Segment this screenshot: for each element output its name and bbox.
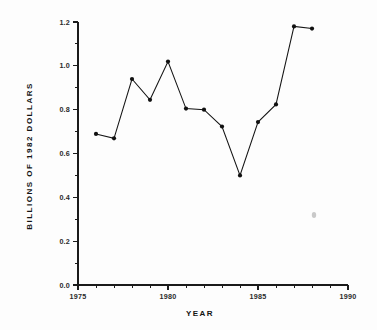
x-tick-label: 1975 (70, 292, 87, 301)
x-tick-label: 1985 (250, 292, 267, 301)
y-tick-label: 1.2 (59, 18, 70, 27)
x-axis-tick-labels: 1975 1980 1985 1990 (70, 292, 357, 301)
y-axis-major-ticks (73, 22, 78, 285)
data-point (256, 120, 260, 124)
y-tick-label: 0.2 (59, 237, 70, 246)
chart-figure: 1.2 1.0 0.8 0.6 0.4 0.2 0.0 1975 1980 19… (0, 0, 377, 330)
y-tick-label: 0.4 (59, 193, 70, 202)
y-tick-label: 0.0 (59, 281, 70, 290)
data-point (166, 60, 170, 64)
x-tick-label: 1980 (160, 292, 177, 301)
y-axis-title: BILLIONS OF 1982 DOLLARS (25, 82, 34, 230)
y-axis-tick-labels: 1.2 1.0 0.8 0.6 0.4 0.2 0.0 (59, 18, 70, 290)
data-point (130, 77, 134, 81)
data-point (292, 24, 296, 28)
data-point (238, 173, 242, 177)
data-point (112, 136, 116, 140)
x-axis-title: YEAR (186, 309, 214, 318)
y-tick-label: 0.8 (59, 105, 70, 114)
data-series-line (96, 26, 312, 175)
scan-artifact-speck (312, 212, 316, 218)
y-tick-label: 1.0 (59, 61, 70, 70)
data-point-markers (94, 24, 314, 177)
data-point (202, 108, 206, 112)
data-point (220, 124, 224, 128)
data-point (94, 132, 98, 136)
data-point (148, 98, 152, 102)
data-point (274, 102, 278, 106)
data-point (310, 27, 314, 31)
y-tick-label: 0.6 (59, 149, 70, 158)
x-tick-label: 1990 (340, 292, 357, 301)
x-axis-major-ticks (78, 285, 348, 290)
line-chart-plot: 1.2 1.0 0.8 0.6 0.4 0.2 0.0 1975 1980 19… (0, 0, 377, 330)
data-point (184, 107, 188, 111)
